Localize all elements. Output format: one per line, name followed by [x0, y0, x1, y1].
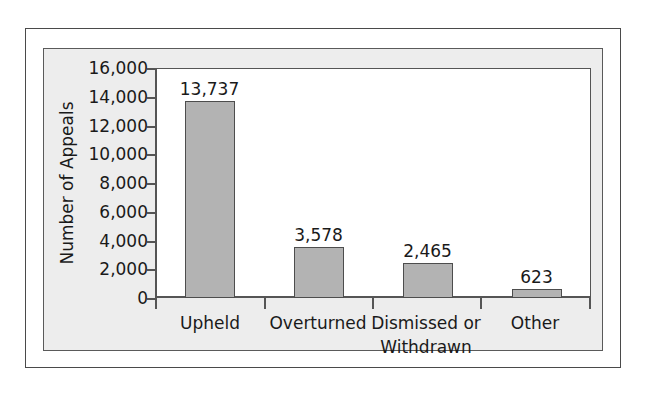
x-tick-mark [589, 298, 591, 309]
x-category-line: Dismissed or [371, 313, 481, 333]
x-category-label-other: Other [511, 311, 559, 335]
y-tick-mark [147, 241, 156, 243]
x-tick-mark [264, 298, 266, 309]
y-tick-label: 8,000 [64, 175, 148, 192]
x-tick-mark [372, 298, 374, 309]
y-tick-mark [147, 183, 156, 185]
y-tick-mark [147, 212, 156, 214]
figure-root: Number of Appeals 16,000 14,000 12,000 1… [0, 0, 646, 393]
x-category-line: Withdrawn [371, 335, 481, 359]
y-tick-mark [147, 154, 156, 156]
x-category-line: Overturned [269, 313, 366, 333]
y-tick-mark [147, 97, 156, 99]
bar-other[interactable] [512, 289, 562, 298]
y-tick-label: 12,000 [64, 117, 148, 134]
y-tick-label: 2,000 [64, 261, 148, 278]
bar-dismissed-or-withdrawn[interactable] [403, 263, 453, 298]
x-tick-mark [480, 298, 482, 309]
x-tick-mark [155, 298, 157, 309]
bar-chart: Number of Appeals 16,000 14,000 12,000 1… [0, 0, 646, 393]
bar-overturned[interactable] [294, 247, 344, 298]
y-tick-mark [147, 269, 156, 271]
x-category-line: Other [511, 313, 559, 333]
bar-value-label: 623 [520, 267, 552, 287]
y-tick-mark [147, 68, 156, 70]
x-category-line: Upheld [180, 313, 240, 333]
y-tick-mark [147, 126, 156, 128]
bar-upheld[interactable] [185, 101, 235, 298]
x-category-label-dismissed-or-withdrawn: Dismissed or Withdrawn [371, 311, 481, 359]
x-category-label-overturned: Overturned [269, 311, 366, 335]
bar-value-label: 3,578 [294, 225, 343, 245]
y-tick-label: 10,000 [64, 146, 148, 163]
y-tick-label: 16,000 [64, 60, 148, 77]
bar-value-label: 2,465 [403, 241, 452, 261]
x-category-label-upheld: Upheld [180, 311, 240, 335]
y-tick-label: 6,000 [64, 203, 148, 220]
y-tick-label: 4,000 [64, 232, 148, 249]
y-axis-tick-labels: 16,000 14,000 12,000 10,000 8,000 6,000 … [60, 0, 148, 393]
y-tick-label: 0 [64, 290, 148, 307]
y-tick-label: 14,000 [64, 88, 148, 105]
bar-value-label: 13,737 [180, 79, 239, 99]
